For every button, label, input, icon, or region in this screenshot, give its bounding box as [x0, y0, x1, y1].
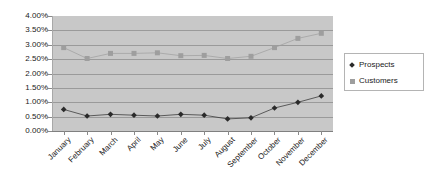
gridline — [52, 117, 333, 118]
gridline — [52, 59, 333, 60]
x-axis-tick — [298, 131, 299, 135]
gridline — [52, 30, 333, 31]
y-axis-tick-label: 1.00% — [25, 98, 48, 106]
y-axis-tick-label: 0.50% — [25, 113, 48, 121]
y-axis-tick-label: 1.50% — [25, 84, 48, 92]
y-axis-tick-label: 2.00% — [25, 70, 48, 78]
y-axis-tick — [47, 30, 52, 31]
y-axis-tick — [47, 16, 52, 17]
y-axis-tick-label: 3.00% — [25, 41, 48, 49]
x-axis-tick-label: July — [197, 136, 213, 152]
x-axis-tick — [181, 131, 182, 135]
legend-label: Prospects — [359, 60, 395, 69]
y-axis-tick — [47, 45, 52, 46]
diamond-marker-icon — [345, 59, 359, 71]
legend-entry-prospects[interactable]: Prospects — [345, 57, 423, 72]
x-axis-tick — [87, 131, 88, 135]
x-axis-tick — [157, 131, 158, 135]
legend-label: Customers — [359, 76, 398, 85]
y-axis-tick — [47, 88, 52, 89]
x-axis-tick — [204, 131, 205, 135]
legend: Prospects Customers — [344, 53, 424, 91]
x-axis-tick — [64, 131, 65, 135]
y-axis-tick — [47, 117, 52, 118]
x-axis-tick — [274, 131, 275, 135]
gridline — [52, 88, 333, 89]
y-axis-line — [52, 16, 53, 132]
x-axis-tick-label: June — [172, 136, 190, 154]
plot-area — [52, 16, 333, 131]
x-axis-tick — [251, 131, 252, 135]
x-axis-tick — [134, 131, 135, 135]
legend-entry-customers[interactable]: Customers — [345, 73, 423, 88]
x-axis-tick — [228, 131, 229, 135]
gridline — [52, 102, 333, 103]
y-axis-tick — [47, 102, 52, 103]
y-axis-tick-label: 0.00% — [25, 127, 48, 135]
gridline — [52, 74, 333, 75]
y-axis-tick-label: 4.00% — [25, 12, 48, 20]
y-axis-tick — [47, 59, 52, 60]
x-axis-tick-label: May — [149, 136, 165, 152]
square-marker-icon — [345, 75, 359, 87]
gridline — [52, 45, 333, 46]
x-axis-tick-label: April — [126, 136, 143, 153]
x-axis-line — [52, 131, 333, 132]
x-axis-tick — [111, 131, 112, 135]
y-axis-tick — [47, 131, 52, 132]
y-axis-tick — [47, 74, 52, 75]
line-chart: 4.00%3.50%3.00%2.50%2.00%1.50%1.00%0.50%… — [0, 0, 431, 188]
y-axis-tick-label: 3.50% — [25, 26, 48, 34]
x-axis-tick-label: March — [98, 136, 119, 157]
y-axis-tick-label: 2.50% — [25, 55, 48, 63]
x-axis-tick — [321, 131, 322, 135]
